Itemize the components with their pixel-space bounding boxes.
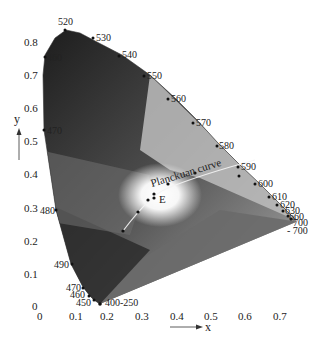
chromaticity-fill xyxy=(30,25,310,315)
svg-text:450: 450 xyxy=(76,297,91,308)
svg-text:530: 530 xyxy=(96,32,111,43)
svg-text:570: 570 xyxy=(196,117,211,128)
svg-text:0.6: 0.6 xyxy=(24,102,38,114)
chromaticity-diagram: Planckuan curve E 520 530 540 550 560 57… xyxy=(0,0,321,340)
svg-text:0.7: 0.7 xyxy=(24,69,38,81)
x-axis-ticks: 0 0.1 0.2 0.3 0.4 0.5 0.6 0.7 xyxy=(37,310,287,322)
svg-text:0.4: 0.4 xyxy=(170,310,184,322)
y-axis-arrow xyxy=(17,128,22,160)
svg-text:540: 540 xyxy=(122,49,137,60)
svg-text:0.8: 0.8 xyxy=(24,36,38,48)
white-point-label: E xyxy=(159,193,166,205)
x-axis-label: x xyxy=(205,320,211,334)
svg-text:0.3: 0.3 xyxy=(135,310,149,322)
svg-text:550: 550 xyxy=(147,70,162,81)
svg-text:0.2: 0.2 xyxy=(24,235,38,247)
x-axis-arrow xyxy=(170,325,203,330)
svg-text:0.3: 0.3 xyxy=(24,202,38,214)
svg-text:0: 0 xyxy=(37,310,43,322)
svg-text:480: 480 xyxy=(40,205,55,216)
svg-text:590: 590 xyxy=(241,161,256,172)
svg-text:600: 600 xyxy=(258,178,273,189)
svg-text:0.4: 0.4 xyxy=(24,168,38,180)
y-axis-label: y xyxy=(14,112,20,126)
svg-text:520: 520 xyxy=(58,16,73,27)
y-axis-ticks: 0.8 0.7 0.6 0.5 0.4 0.3 0.2 0.1 0 xyxy=(24,36,38,312)
svg-text:580: 580 xyxy=(219,140,234,151)
svg-text:400-250: 400-250 xyxy=(105,297,138,308)
svg-text:0.5: 0.5 xyxy=(24,135,38,147)
svg-text:470: 470 xyxy=(47,125,62,136)
svg-text:0.7: 0.7 xyxy=(273,310,287,322)
svg-text:0.1: 0.1 xyxy=(24,268,38,280)
svg-text:0.6: 0.6 xyxy=(238,310,252,322)
svg-text:0.1: 0.1 xyxy=(69,310,83,322)
svg-text:460: 460 xyxy=(47,52,62,63)
svg-text:0.2: 0.2 xyxy=(100,310,114,322)
svg-text:490: 490 xyxy=(54,259,69,270)
svg-text:560: 560 xyxy=(171,93,186,104)
svg-text:- 700: - 700 xyxy=(287,225,308,236)
